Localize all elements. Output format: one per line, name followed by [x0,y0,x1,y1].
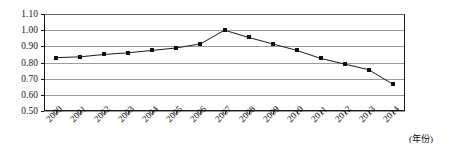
chart-page: 1.101.000.900.800.700.600.50 20002001200… [0,0,452,158]
x-axis-tick-mark [321,111,322,114]
x-axis-tick-mark [200,111,201,114]
y-axis: 1.101.000.900.800.700.600.50 [0,14,41,111]
x-axis-tick-mark [176,111,177,114]
plot-area [44,14,405,111]
x-axis-tick-mark [128,111,129,114]
y-axis-tick-label: 0.60 [21,90,38,100]
x-axis-tick-mark [393,111,394,114]
y-axis-tick-label: 0.50 [21,106,38,116]
x-axis-title: (年份) [409,131,433,145]
y-axis-tick-label: 0.90 [21,41,38,51]
x-axis-ticks [44,111,405,115]
x-axis-tick-mark [369,111,370,114]
x-axis-tick-mark [297,111,298,114]
y-axis-tick-label: 1.10 [21,9,38,19]
y-axis-tick-label: 0.80 [21,58,38,68]
y-axis-tick-label: 0.70 [21,74,38,84]
x-axis-tick-mark [104,111,105,114]
y-axis-tick-label: 1.00 [21,25,38,35]
x-axis-tick-mark [273,111,274,114]
x-axis-tick-mark [225,111,226,114]
plot-frame [44,14,405,111]
x-axis-tick-mark [345,111,346,114]
x-axis-tick-mark [56,111,57,114]
x-axis-tick-mark [80,111,81,114]
x-axis-tick-mark [249,111,250,114]
x-axis-tick-mark [152,111,153,114]
